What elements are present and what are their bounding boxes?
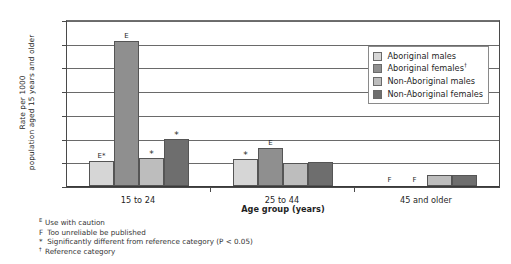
plot-area: 7006005004003002001000 E*E***EFF Aborigi… xyxy=(66,20,500,188)
legend-item: Aboriginal males xyxy=(373,50,483,63)
bar-marker: * xyxy=(149,150,154,159)
bar-marker: E xyxy=(124,32,128,42)
y-axis-title-line1: Rate per 1000 xyxy=(18,12,27,192)
legend-swatch-aboriginal-males xyxy=(373,52,382,61)
legend-swatch-non-aboriginal-males xyxy=(373,77,382,86)
y-axis-title-line2: population aged 15 years and older xyxy=(27,12,36,192)
y-axis-tick xyxy=(62,163,66,164)
y-axis-tick xyxy=(62,140,66,141)
bar: * xyxy=(139,158,164,186)
legend: Aboriginal males Aboriginal females† Non… xyxy=(368,46,489,104)
y-axis-title: Rate per 1000 population aged 15 years a… xyxy=(18,12,37,192)
x-axis-tick xyxy=(210,188,211,192)
bar-marker: E* xyxy=(98,152,106,162)
legend-label-aboriginal-females: Aboriginal females† xyxy=(387,64,466,73)
legend-item: Non-Aboriginal males xyxy=(373,75,483,88)
bar: * xyxy=(233,159,258,186)
x-axis-line xyxy=(67,186,499,187)
bar-marker: F xyxy=(387,176,391,186)
bar xyxy=(283,163,308,186)
bar: E xyxy=(114,41,139,186)
legend-label-non-aboriginal-males: Non-Aboriginal males xyxy=(387,77,475,86)
bar: E xyxy=(258,148,283,186)
x-axis-title: Age group (years) xyxy=(66,204,500,214)
bar xyxy=(427,175,452,186)
bar xyxy=(308,162,333,186)
bar xyxy=(452,175,477,186)
bar: * xyxy=(164,139,189,186)
legend-swatch-non-aboriginal-females xyxy=(373,90,382,99)
bar-marker: E xyxy=(268,139,272,149)
bar-marker: * xyxy=(174,131,179,140)
legend-label-aboriginal-males: Aboriginal males xyxy=(387,52,456,61)
y-axis-tick xyxy=(62,45,66,46)
y-axis-tick xyxy=(62,68,66,69)
y-axis-tick xyxy=(62,92,66,93)
bar-marker: * xyxy=(243,151,248,160)
footnote-star: * Significantly different from reference… xyxy=(39,237,459,247)
legend-item: Non-Aboriginal females xyxy=(373,88,483,101)
bar: E* xyxy=(89,161,114,186)
y-axis-tick xyxy=(62,116,66,117)
x-axis-tick xyxy=(354,188,355,192)
footnote-f: F Too unreliable be published xyxy=(39,228,459,238)
bar-group: *E xyxy=(233,21,333,186)
chart-figure: Rate per 1000 population aged 15 years a… xyxy=(0,0,511,264)
bar-group: E*E** xyxy=(89,21,189,186)
legend-label-non-aboriginal-females: Non-Aboriginal females xyxy=(387,90,483,99)
footnotes: EUse with caution F Too unreliable be pu… xyxy=(39,218,459,256)
bar-marker: F xyxy=(412,176,416,186)
y-axis-tick xyxy=(62,21,66,22)
legend-swatch-aboriginal-females xyxy=(373,64,382,73)
footnote-e: EUse with caution xyxy=(39,218,459,228)
footnote-dagger: †Reference category xyxy=(39,247,459,257)
legend-item: Aboriginal females† xyxy=(373,63,483,76)
